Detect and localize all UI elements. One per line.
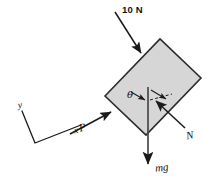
diagram-canvas	[0, 0, 207, 184]
applied-load-label: 10 N	[122, 5, 143, 15]
block-shape	[105, 39, 201, 135]
free-body-diagram: 10 N P N mg θ x y	[0, 0, 207, 184]
applied-load-arrow	[115, 12, 141, 53]
coordinate-axes	[22, 111, 81, 143]
theta-angle-label: θ	[127, 90, 133, 100]
weight-label: mg	[154, 161, 169, 173]
